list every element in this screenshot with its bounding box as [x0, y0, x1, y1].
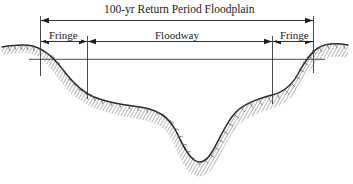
- arrow-left-icon-floodway: [88, 39, 96, 44]
- floodway-label: Floodway: [152, 29, 202, 41]
- floodplain-cross-section-figure: 100-yr Return Period Floodplain Fringe F…: [0, 0, 353, 184]
- fringe-right-label: Fringe: [277, 29, 312, 41]
- arrow-left-icon-floodplain: [41, 18, 49, 23]
- diagram-canvas: [0, 0, 353, 184]
- page-title: 100-yr Return Period Floodplain: [101, 3, 257, 15]
- fringe-left-label: Fringe: [46, 29, 81, 41]
- arrow-right-icon-floodway: [264, 39, 272, 44]
- arrow-right-icon-floodplain: [305, 18, 313, 23]
